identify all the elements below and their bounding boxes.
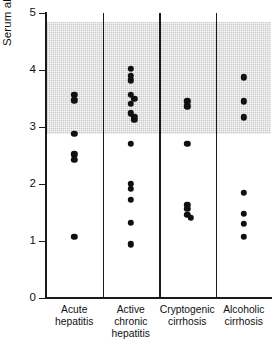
y-tick-label-1: 1 — [24, 235, 36, 247]
y-axis-label: Serum albumin (g 100 ml-1) — [0, 0, 13, 46]
y-axis-label-text: Serum albumin (g 100 ml — [1, 0, 13, 46]
category-label-line: Active — [103, 304, 160, 316]
category-label-3: Cryptogeniccirrhosis — [159, 304, 216, 328]
separator-3 — [216, 13, 218, 298]
category-label-line: cirrhosis — [216, 316, 273, 328]
category-label-line: chronic — [103, 316, 160, 328]
x-axis-category-labels: AcutehepatitisActivechronichepatitisCryp… — [46, 302, 272, 341]
category-label-line: Cryptogenic — [159, 304, 216, 316]
category-label-2: Activechronichepatitis — [103, 304, 160, 341]
separator-2 — [159, 13, 161, 298]
category-label-4: Alcoholiccirrhosis — [216, 304, 273, 328]
category-label-line: Acute — [46, 304, 103, 316]
separator-1 — [103, 13, 105, 298]
category-label-line: hepatitis — [46, 316, 103, 328]
chart-figure: Serum albumin (g 100 ml-1) 012345 Acuteh… — [0, 0, 278, 341]
category-label-line: hepatitis — [103, 328, 160, 340]
y-axis-line — [45, 12, 47, 299]
category-label-line: cirrhosis — [159, 316, 216, 328]
category-label-1: Acutehepatitis — [46, 304, 103, 328]
y-tick-label-0: 0 — [24, 292, 36, 304]
y-tick-label-3: 3 — [24, 121, 36, 133]
category-label-line: Alcoholic — [216, 304, 273, 316]
y-tick-label-4: 4 — [24, 64, 36, 76]
y-tick-label-5: 5 — [24, 7, 36, 19]
y-tick-label-2: 2 — [24, 178, 36, 190]
